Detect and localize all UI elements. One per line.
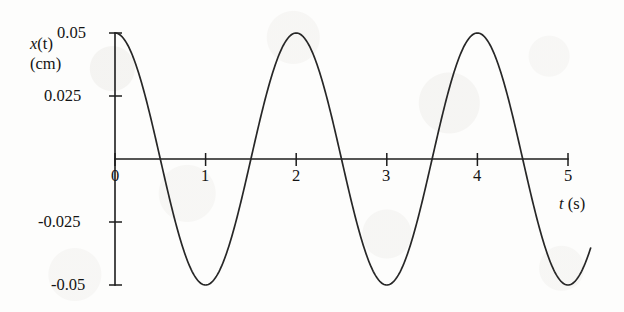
x-tick-label-2: 2 <box>292 168 300 185</box>
y-axis-title-unit: (cm) <box>30 54 61 73</box>
y-tick-label-0: 0.05 <box>57 25 86 42</box>
x-tick-label-4: 4 <box>473 168 481 185</box>
oscillation-figure: x(t) (cm) 0.05 0.025 -0.025 -0.05 0 1 2 … <box>0 0 624 312</box>
x-tick-label-0: 0 <box>111 168 119 185</box>
x-tick-label-3: 3 <box>382 168 390 185</box>
y-tick-label-2: -0.025 <box>38 214 81 231</box>
y-tick-label-3: -0.05 <box>51 277 85 294</box>
x-axis-title-unit: (s) <box>568 194 585 213</box>
x-tick-label-5: 5 <box>564 168 572 185</box>
x-axis-title: t (s) <box>559 196 585 213</box>
x-axis-title-variable: t <box>559 194 564 213</box>
plot-canvas <box>0 0 624 312</box>
y-tick-label-1: 0.025 <box>44 88 81 105</box>
y-axis-title-argument: (t) <box>37 34 53 53</box>
x-tick-label-1: 1 <box>201 168 209 185</box>
